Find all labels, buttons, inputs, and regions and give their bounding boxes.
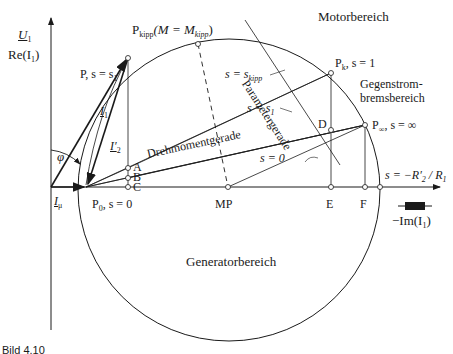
vector-imu-label: Iμ [54,195,62,210]
phi-label: φ [57,150,64,163]
region-motor-label: Motorbereich [318,10,389,23]
s-0-label: s = 0 [260,152,285,164]
point-p0-label: P0, s = 0 [92,198,132,213]
point-c-label: C [133,181,141,193]
point-f-label: F [360,198,367,210]
current-locus-circle [78,39,380,341]
point-mp-label: MP [215,198,232,210]
region-counter-current-label: Gegenstrom-bremsbereich [360,78,425,104]
point-p-label: P, s = s1 [80,68,117,83]
point-pk-label: Pk, s = 1 [335,57,375,72]
point-e-label: E [326,198,333,210]
point-pkipp-label: Pkipp(M = Mkipp) [132,23,213,39]
resistor-icon [398,202,432,210]
vector-i2-label: I′2 [110,140,121,155]
figure-caption: Bild 4.10 [2,345,45,354]
point-pinf-label: P∞, s = ∞ [372,119,416,134]
point-d-label: D [318,118,327,130]
y-axis-label: Re(I1) [8,48,39,64]
s-negative-label: s = −R′2 / R1 [385,169,447,184]
region-generator-label: Generatorbereich [186,255,276,268]
x-axis-label: −Im(I1) [392,214,431,230]
vector-i1-label: I1 [100,105,108,120]
y-axis-voltage-label: U1 [18,28,31,44]
